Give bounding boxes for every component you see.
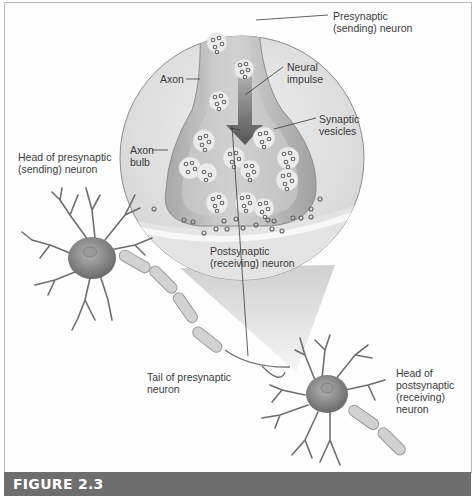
presynaptic-soma bbox=[68, 237, 116, 279]
label-synaptic-vesicles: Synaptic vesicles bbox=[319, 113, 359, 137]
label-head-presynaptic: Head of presynaptic (sending) neuron bbox=[18, 151, 111, 175]
magnification-cone bbox=[180, 265, 335, 372]
label-axon: Axon bbox=[160, 73, 184, 85]
figure-caption-bar: FIGURE 2.3 bbox=[4, 472, 471, 496]
label-postsynaptic-neuron: Postsynaptic (receiving) neuron bbox=[210, 245, 295, 269]
label-head-postsynaptic: Head of postsynaptic (receiving) neuron bbox=[396, 367, 454, 415]
figure-number: FIGURE 2.3 bbox=[13, 476, 104, 492]
postsynaptic-soma bbox=[306, 375, 348, 413]
label-axon-bulb: Axon bulb bbox=[130, 144, 154, 168]
label-tail-presynaptic: Tail of presynaptic neuron bbox=[147, 371, 231, 395]
label-presynaptic-neuron: Presynaptic (sending) neuron bbox=[333, 10, 412, 34]
label-neural-impulse: Neural impulse bbox=[287, 61, 323, 85]
